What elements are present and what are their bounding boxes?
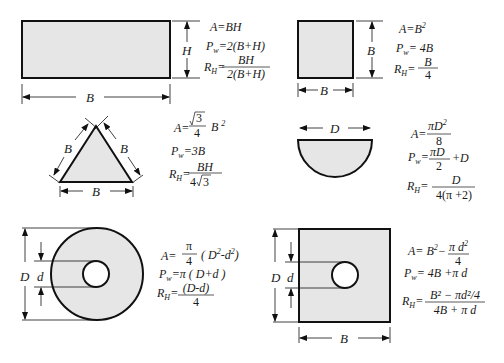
triangle-formulas: A= 3 4 B2 Pw=3B RH= BH 4 3	[168, 111, 225, 189]
triangle-area-den: 4	[194, 126, 200, 140]
square-hole-area-num: π d2	[449, 239, 468, 254]
square-shape	[298, 21, 353, 78]
semicircle-radius-num: D	[451, 173, 461, 187]
square-hole-perimeter-formula: Pw= 4B +π d	[403, 266, 468, 282]
triangle-radius-den-b: 3	[203, 175, 209, 189]
square-hole-height-label: D	[270, 270, 281, 285]
annulus-outer-diameter-label: D	[19, 269, 30, 284]
square-height-label: B	[367, 43, 375, 58]
annulus-formulas: A= π 4 ( D2-d2) Pw=π ( D+d ) RH= (D-d) 4	[156, 239, 239, 309]
annulus-area-tail: ( D2-d2)	[201, 247, 239, 262]
triangle-right-side-label: B	[120, 141, 128, 156]
square-area-formula: A=B2	[398, 21, 426, 36]
semicircle-perimeter-den: 2	[436, 159, 442, 173]
semicircle-perimeter-tail: +D	[452, 151, 469, 165]
semicircle-radius-den: 4(π +2)	[436, 188, 472, 202]
square-width-label: B	[320, 83, 328, 98]
annulus-radius-lhs: RH=	[156, 286, 178, 302]
rect-area-formula: A=BH	[209, 20, 243, 34]
triangle-perimeter-formula: Pw=3B	[170, 144, 206, 160]
rect-width-label: B	[86, 90, 94, 105]
rectangle-shape	[22, 21, 170, 78]
triangle-radius-den-a: 4	[190, 175, 196, 189]
square-formulas: A=B2 Pw= 4B RH= B 4	[393, 21, 438, 82]
square-hole-circle	[332, 262, 358, 288]
square-hole-radius-lhs: RH=	[401, 294, 423, 310]
annulus-area-den: 4	[186, 254, 192, 268]
rect-radius-den: 2(B+H)	[227, 67, 265, 81]
triangle-radius-lhs: RH=	[168, 167, 190, 183]
square-hole-diameter-label: d	[287, 270, 294, 285]
rect-radius-num: BH	[238, 53, 255, 67]
triangle-base-label: B	[92, 184, 100, 199]
square-section: B B A=B2 Pw= 4B RH= B 4	[298, 21, 438, 98]
square-with-hole-section: D d B A= B2− π d2 4 Pw= 4B +π d RH= B² −…	[270, 229, 485, 346]
semicircle-perimeter-lhs: Pw=	[407, 150, 429, 166]
triangle-area-num: 3	[196, 111, 202, 125]
triangle-left-side-label: B	[64, 141, 72, 156]
annulus-radius-num: (D-d)	[183, 281, 210, 295]
semicircle-formulas: A= πD2 8 Pw= πD 2 +D RH= D 4(π +2)	[406, 118, 475, 202]
rect-radius-formula-lhs: RH=	[203, 60, 225, 76]
square-hole-formulas: A= B2− π d2 4 Pw= 4B +π d RH= B² − πd²/4…	[401, 239, 485, 317]
semicircle-diameter-label: D	[329, 121, 340, 136]
triangle-section: B B B A= 3 4 B2 Pw=3B RH= BH 4 3	[49, 111, 225, 199]
semicircle-radius-lhs: RH=	[406, 179, 428, 195]
square-radius-den: 4	[425, 68, 431, 82]
annulus-area-lhs: A=	[160, 249, 176, 263]
triangle-radius-num: BH	[197, 160, 214, 174]
triangle-area-lhs: A=	[173, 121, 189, 135]
rect-perimeter-formula: Pw=2(B+H)	[205, 39, 265, 55]
annulus-section: D d A= π 4 ( D2-d2) Pw=π ( D+d ) RH= (D-…	[19, 228, 239, 320]
square-hole-radius-den: 4B + π d	[434, 303, 477, 317]
semicircle-perimeter-num: πD	[430, 145, 445, 159]
rectangle-section: H B A=BH Pw=2(B+H) RH= BH 2(B+H)	[22, 20, 270, 105]
triangle-area-tail: B2	[211, 119, 225, 134]
diagram-canvas: H B A=BH Pw=2(B+H) RH= BH 2(B+H) B B A=B…	[0, 0, 504, 363]
annulus-radius-den: 4	[193, 295, 199, 309]
square-radius-num: B	[424, 55, 432, 69]
semicircle-area-lhs: A=	[410, 127, 426, 141]
rect-formulas: A=BH Pw=2(B+H) RH= BH 2(B+H)	[203, 20, 270, 81]
square-hole-radius-num: B² − πd²/4	[430, 288, 480, 302]
square-radius-lhs: RH=	[393, 62, 415, 78]
square-hole-width-label: B	[340, 331, 348, 346]
semicircle-section: D A= πD2 8 Pw= πD 2 +D RH= D 4(π +2)	[298, 118, 475, 202]
square-hole-area-formula: A= B2−	[407, 243, 446, 258]
semicircle-area-num: πD2	[428, 118, 447, 133]
annulus-area-num: π	[186, 239, 192, 253]
annulus-inner-circle	[83, 261, 109, 287]
semicircle-shape	[298, 140, 372, 177]
rect-height-label: H	[181, 43, 192, 58]
annulus-inner-diameter-label: d	[37, 269, 44, 284]
